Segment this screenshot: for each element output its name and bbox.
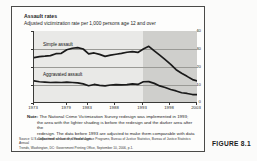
series-lines [34,31,197,103]
note-text-1: The National Crime Victimization Survey … [39,114,188,119]
x-tick-label-1973: 1973 [24,105,42,110]
chart: 40 30 20 10 0 Simple assault Aggravated … [19,26,201,112]
figure-card-inner: Assault rates Adjusted victimization rat… [12,7,204,151]
x-tick-label-1983: 1983 [78,105,96,110]
note-line-1: Note: The National Crime Victimization S… [27,114,199,120]
x-tick-label-1979: 1979 [57,105,75,110]
figure-source: Source: U.S. Department of Justice, Offi… [19,137,199,150]
source-line-1: Source: U.S. Department of Justice, Offi… [19,137,199,146]
figure-number-label: FIGURE 8.1 [212,140,251,147]
chart-title: Assault rates [24,13,199,20]
figure-card: Assault rates Adjusted victimization rat… [11,6,205,152]
plot-area: Simple assault Aggravated assault [33,31,197,103]
source-line-2: Trends, Washington, DC: Government Print… [19,146,199,150]
x-tick-label-1993: 1993 [133,105,151,110]
note-line-2: the area with the lighter shading is bef… [27,120,199,131]
line-simple-assault [34,46,197,81]
x-tick-label-2003: 2003 [187,105,205,110]
line-aggravated-assault [34,81,197,95]
x-tick-label-1998: 1998 [160,105,178,110]
figure-page: Assault rates Adjusted victimization rat… [0,0,257,161]
note-label: Note: [27,114,38,119]
x-tick-label-1988: 1988 [105,105,123,110]
